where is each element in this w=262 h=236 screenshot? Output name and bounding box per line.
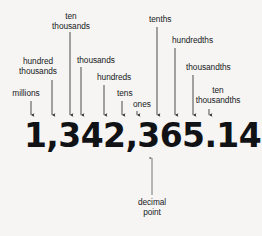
number-value: 1,342,365.1427: [24, 117, 220, 155]
label-hundred-thousands: hundred thousands: [19, 56, 57, 76]
label-decimal-point-line2: point: [138, 207, 166, 217]
label-thousandths: thousandths: [186, 63, 231, 73]
label-hundred-thousands-line1: hundred: [19, 56, 57, 66]
place-value-diagram: millions hundred thousands ten thousands…: [0, 0, 262, 236]
label-tens: tens: [117, 89, 132, 99]
label-thousands: thousands: [77, 56, 115, 66]
label-tenths: tenths: [149, 15, 171, 25]
label-millions: millions: [12, 89, 39, 99]
label-ten-thousands: ten thousands: [52, 11, 90, 31]
label-hundred-thousands-line2: thousands: [19, 66, 57, 76]
label-decimal-point: decimal point: [138, 197, 166, 217]
label-ones: ones: [133, 100, 151, 110]
label-hundreds: hundreds: [97, 73, 131, 83]
label-ten-thousandths: ten thousandths: [196, 85, 241, 105]
label-ten-thousandths-line2: thousandths: [196, 95, 241, 105]
label-ten-thousands-line2: thousands: [52, 21, 90, 31]
label-ten-thousandths-line1: ten: [196, 85, 241, 95]
label-decimal-point-line1: decimal: [138, 197, 166, 207]
label-hundredths: hundredths: [172, 36, 213, 46]
label-ten-thousands-line1: ten: [52, 11, 90, 21]
